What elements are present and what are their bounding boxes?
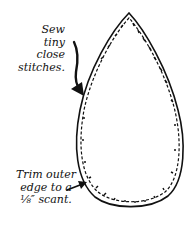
annotation-sew-line-4: stitches. <box>18 62 65 75</box>
annotation-sew: Sew tiny close stitches. <box>18 24 65 74</box>
outer-edge-outline <box>77 13 184 207</box>
stitch-ticks <box>82 23 176 203</box>
arrow-sew-icon <box>71 42 84 96</box>
annotation-trim-line-3: ⅛″ scant. <box>6 194 86 207</box>
annotation-trim-line-1: Trim outer <box>6 169 86 182</box>
annotation-sew-line-3: close <box>18 49 65 62</box>
annotation-sew-line-1: Sew <box>18 24 65 37</box>
inner-stitch-line <box>81 18 179 202</box>
annotation-trim: Trim outer edge to a ⅛″ scant. <box>6 169 86 207</box>
